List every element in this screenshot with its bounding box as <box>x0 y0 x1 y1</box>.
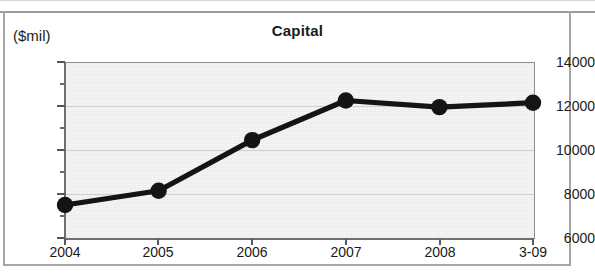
y-tick-minor-13000 <box>60 83 65 85</box>
y-tick-12000 <box>57 105 65 107</box>
x-tick-label-2004: 2004 <box>30 244 100 260</box>
y-tick-label-14000: 14000 <box>541 55 595 69</box>
gridline-10000 <box>66 150 534 151</box>
chart-title: Capital <box>0 22 595 39</box>
gridline-8000 <box>66 194 534 195</box>
y-tick-label-10000: 10000 <box>541 143 595 157</box>
y-tick-minor-11000 <box>60 127 65 129</box>
gridline-12000 <box>66 106 534 107</box>
y-axis-line <box>64 62 66 240</box>
page-top-edge <box>0 0 595 1</box>
chart-page: Capital ($mil) 14000 12000 10000 8000 60… <box>0 0 595 276</box>
y-tick-minor-9000 <box>60 171 65 173</box>
x-tick-label-2008: 2008 <box>405 244 475 260</box>
page-frame-left <box>3 11 5 266</box>
y-tick-8000 <box>57 193 65 195</box>
page-frame-right <box>569 11 571 266</box>
x-tick-label-2005: 2005 <box>123 244 193 260</box>
plot-area <box>65 62 535 239</box>
plot-background-texture <box>66 63 534 239</box>
y-axis-unit-label: ($mil) <box>13 27 51 44</box>
y-tick-label-12000: 12000 <box>541 99 595 113</box>
page-frame-top <box>0 11 595 13</box>
page-frame-bottom <box>3 264 570 266</box>
y-tick-label-6000: 6000 <box>541 231 595 245</box>
y-tick-14000 <box>57 61 65 63</box>
y-tick-10000 <box>57 149 65 151</box>
x-tick-label-3-09: 3-09 <box>498 244 568 260</box>
y-tick-label-8000: 8000 <box>541 187 595 201</box>
x-axis-line <box>65 238 534 240</box>
x-tick-label-2006: 2006 <box>217 244 287 260</box>
x-tick-label-2007: 2007 <box>311 244 381 260</box>
y-tick-minor-7000 <box>60 215 65 217</box>
